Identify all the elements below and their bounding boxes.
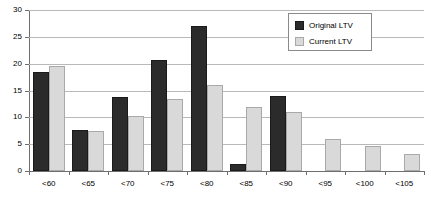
- bar-curr: [167, 99, 183, 171]
- bar-chart: 051015202530 <60<65<70<75<80<85<90<95<10…: [0, 0, 431, 197]
- x-axis-tick: [227, 171, 228, 175]
- x-axis-tick: [266, 171, 267, 175]
- x-axis-label: <60: [29, 179, 69, 188]
- y-axis-label: 15: [0, 87, 22, 95]
- bar-group: [230, 10, 262, 171]
- bar-orig: [191, 26, 207, 171]
- x-axis-tick: [148, 171, 149, 175]
- bar-curr: [365, 146, 381, 171]
- x-axis-label: <90: [266, 179, 306, 188]
- bar-group: [112, 10, 144, 171]
- bar-orig: [112, 97, 128, 171]
- x-axis-label: <65: [69, 179, 109, 188]
- chart-legend: Original LTV Current LTV: [288, 13, 372, 51]
- bar-curr: [88, 131, 104, 171]
- x-axis-tick: [385, 171, 386, 175]
- bar-orig: [33, 72, 49, 171]
- legend-item-current: Current LTV: [295, 35, 365, 48]
- bar-group: [388, 10, 420, 171]
- x-axis-label: <95: [306, 179, 346, 188]
- bar-curr: [207, 85, 223, 171]
- x-axis-label: <70: [108, 179, 148, 188]
- x-axis-tick: [306, 171, 307, 175]
- legend-label-current: Current LTV: [309, 37, 352, 46]
- x-axis-label: <85: [227, 179, 267, 188]
- bar-orig: [270, 96, 286, 171]
- bar-group: [191, 10, 223, 171]
- legend-swatch-current-icon: [295, 37, 304, 46]
- y-axis-label: 20: [0, 60, 22, 68]
- bar-curr: [128, 116, 144, 171]
- bar-group: [72, 10, 104, 171]
- bar-orig: [151, 60, 167, 171]
- x-axis-tick: [345, 171, 346, 175]
- x-axis-label: <80: [187, 179, 227, 188]
- bar-curr: [286, 112, 302, 171]
- legend-item-original: Original LTV: [295, 19, 365, 32]
- x-axis-label: <100: [345, 179, 385, 188]
- bar-curr: [246, 107, 262, 171]
- x-axis-label: <75: [148, 179, 188, 188]
- legend-swatch-original-icon: [295, 21, 304, 30]
- bar-group: [33, 10, 65, 171]
- y-axis-label: 10: [0, 113, 22, 121]
- y-axis-label: 0: [0, 167, 22, 175]
- x-axis-tick: [69, 171, 70, 175]
- legend-label-original: Original LTV: [309, 21, 353, 30]
- y-axis-label: 25: [0, 33, 22, 41]
- bar-curr: [325, 139, 341, 171]
- bar-curr: [49, 66, 65, 171]
- bar-orig: [72, 130, 88, 171]
- bar-group: [151, 10, 183, 171]
- y-axis-label: 5: [0, 140, 22, 148]
- x-axis-tick: [29, 171, 30, 175]
- y-axis-label: 30: [0, 6, 22, 14]
- x-axis-tick: [424, 171, 425, 175]
- bar-curr: [404, 154, 420, 171]
- x-axis-tick: [187, 171, 188, 175]
- x-axis-tick: [108, 171, 109, 175]
- x-axis-label: <105: [385, 179, 425, 188]
- bar-orig: [230, 164, 246, 172]
